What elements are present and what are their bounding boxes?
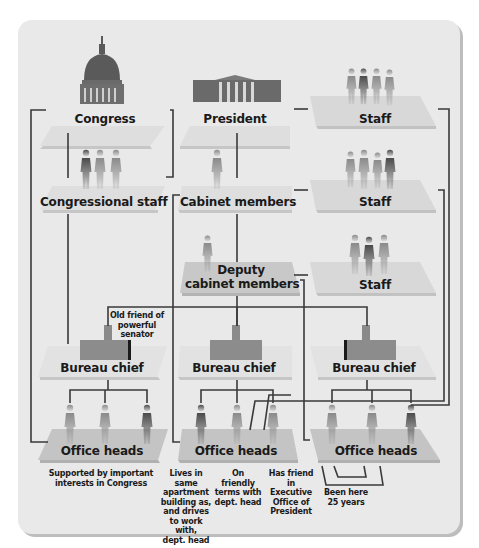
- deputy-label-line2: cabinet members: [185, 277, 299, 291]
- node-president: President: [185, 112, 285, 126]
- annotation-line: Lives in same: [170, 469, 203, 488]
- node-bureau-chief-1: Bureau chief: [52, 361, 152, 375]
- annotation-line: powerful: [118, 321, 156, 330]
- annotation-has-friend: Has friend in Executive Office of Presid…: [264, 469, 318, 517]
- annotation-line: to work with,: [170, 517, 203, 536]
- capitol-dome-icon: [80, 36, 124, 104]
- node-cabinet-staff: Staff: [330, 195, 420, 209]
- node-office-heads-2: Office heads: [186, 444, 286, 458]
- annotation-line: On friendly: [221, 469, 254, 488]
- annotation-line: building as,: [161, 498, 211, 507]
- deputy-label-line1: Deputy: [217, 263, 265, 277]
- annotation-line: senator: [120, 330, 153, 339]
- annotation-line: Supported by important: [49, 469, 153, 478]
- cabinet-figure: [212, 150, 223, 189]
- annotation-line: Has friend in: [269, 469, 314, 488]
- annotation-line: and drives: [163, 507, 208, 516]
- node-bureau-chief-3: Bureau chief: [324, 361, 424, 375]
- annotation-lives-same: Lives in same apartment building as, and…: [158, 469, 214, 545]
- annotation-line: Been here: [324, 488, 368, 497]
- annotation-line: Old friend of: [110, 311, 164, 320]
- annotation-supported: Supported by important interests in Cong…: [46, 469, 156, 488]
- node-deputy-staff: Staff: [330, 278, 420, 292]
- node-bureau-chief-2: Bureau chief: [184, 361, 284, 375]
- annotation-line: 25 years: [327, 498, 364, 507]
- annotation-line: Office of: [273, 498, 310, 507]
- annotation-line: Executive: [270, 488, 312, 497]
- annotation-old-friend: Old friend of powerful senator: [108, 311, 166, 340]
- congress-staff-figures: [81, 150, 122, 189]
- annotation-friendly: On friendly terms with dept. head: [214, 469, 262, 507]
- annotation-line: dept. head: [215, 498, 262, 507]
- node-office-heads-1: Office heads: [52, 444, 152, 458]
- node-deputy-cabinet: Deputy cabinet members: [185, 263, 297, 291]
- desk-person-icon: [344, 325, 396, 360]
- annotation-been-here: Been here 25 years: [322, 488, 370, 507]
- node-cabinet-members: Cabinet members: [180, 195, 292, 209]
- annotation-line: terms with: [215, 488, 262, 497]
- annotation-line: President: [270, 507, 312, 516]
- node-congressional-staff: Congressional staff: [40, 195, 160, 209]
- node-congress: Congress: [60, 112, 150, 126]
- annotation-line: interests in Congress: [55, 479, 147, 488]
- annotation-line: apartment: [163, 488, 209, 497]
- annotation-line: dept. head: [163, 536, 210, 545]
- deputy-staff-figures: [350, 235, 390, 276]
- node-president-staff: Staff: [330, 112, 420, 126]
- white-house-icon: [193, 75, 281, 102]
- desk-person-icon: [210, 325, 262, 360]
- node-office-heads-3: Office heads: [326, 444, 426, 458]
